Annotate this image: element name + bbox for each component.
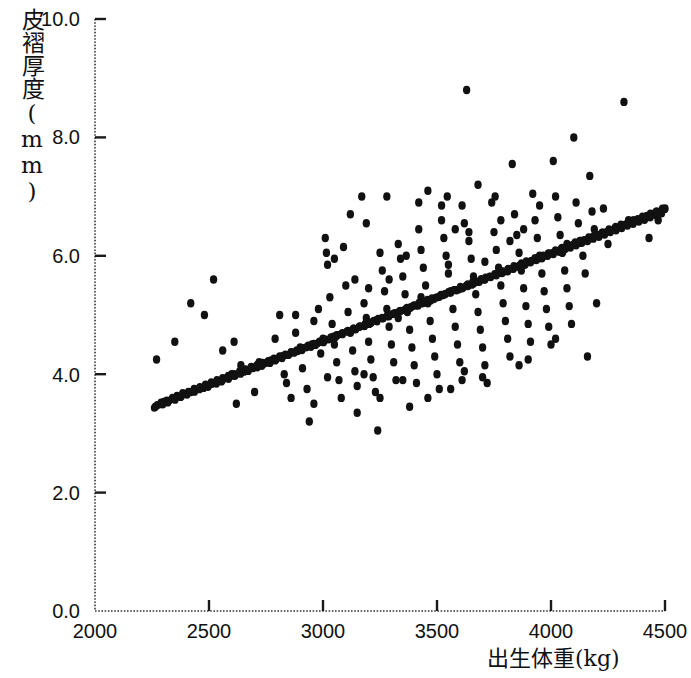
data-point — [383, 192, 390, 200]
data-point — [251, 388, 258, 396]
data-point — [385, 323, 392, 331]
data-point — [570, 133, 577, 141]
data-point — [233, 400, 240, 408]
data-point — [338, 394, 345, 402]
data-point — [390, 358, 397, 366]
data-point — [490, 228, 497, 236]
data-point — [395, 240, 402, 248]
data-point — [328, 320, 335, 328]
data-point — [479, 343, 486, 351]
data-point — [509, 160, 516, 168]
data-point — [654, 216, 661, 224]
data-point — [445, 260, 452, 268]
data-point — [504, 334, 511, 342]
data-point — [283, 379, 290, 387]
data-point — [593, 299, 600, 307]
data-point — [310, 317, 317, 325]
data-point — [579, 252, 586, 260]
data-point — [561, 266, 568, 274]
data-point — [452, 225, 459, 233]
data-point — [365, 284, 372, 292]
data-point — [340, 243, 347, 251]
data-point — [433, 370, 440, 378]
data-point — [506, 352, 513, 360]
data-point — [219, 346, 226, 354]
data-point — [511, 210, 518, 218]
data-point — [620, 98, 627, 106]
data-point — [586, 172, 593, 180]
data-point — [447, 385, 454, 393]
data-point — [461, 367, 468, 375]
data-point — [556, 231, 563, 239]
data-point — [515, 361, 522, 369]
data-point — [411, 361, 418, 369]
data-point — [442, 252, 449, 260]
data-point — [230, 337, 237, 345]
data-point — [333, 358, 340, 366]
data-point — [408, 343, 415, 351]
data-point — [458, 201, 465, 209]
data-point — [604, 240, 611, 248]
data-point — [477, 326, 484, 334]
data-point — [456, 358, 463, 366]
data-point — [465, 228, 472, 236]
data-point — [365, 337, 372, 345]
data-point — [472, 290, 479, 298]
data-point — [324, 373, 331, 381]
data-point — [452, 323, 459, 331]
data-point — [153, 355, 160, 363]
regression-line — [151, 204, 668, 411]
data-point — [399, 272, 406, 280]
data-point — [538, 269, 545, 277]
data-point — [420, 263, 427, 271]
data-point — [376, 394, 383, 402]
data-point — [479, 373, 486, 381]
data-point — [431, 352, 438, 360]
data-point — [342, 281, 349, 289]
data-point — [445, 269, 452, 277]
data-point — [315, 305, 322, 313]
data-point — [584, 352, 591, 360]
data-point — [497, 216, 504, 224]
data-point — [497, 281, 504, 289]
data-point — [515, 249, 522, 257]
data-point — [281, 370, 288, 378]
data-point — [463, 86, 470, 94]
data-point — [513, 231, 520, 239]
data-point — [322, 234, 329, 242]
data-point — [363, 219, 370, 227]
data-point — [403, 252, 410, 260]
data-point — [171, 337, 178, 345]
data-point — [415, 225, 422, 233]
data-point — [351, 367, 358, 375]
data-point — [317, 349, 324, 357]
data-point — [324, 260, 331, 268]
data-point — [424, 186, 431, 194]
data-point — [465, 237, 472, 245]
data-point — [540, 287, 547, 295]
data-point — [522, 302, 529, 310]
data-point — [415, 198, 422, 206]
data-point — [360, 370, 367, 378]
data-point — [438, 216, 445, 224]
data-point — [520, 284, 527, 292]
data-point — [474, 308, 481, 316]
data-point — [347, 210, 354, 218]
data-point — [406, 326, 413, 334]
data-point — [531, 216, 538, 224]
data-point — [354, 408, 361, 416]
data-point — [552, 334, 559, 342]
data-point — [566, 302, 573, 310]
data-point — [187, 299, 194, 307]
data-point — [429, 334, 436, 342]
regression-marker — [661, 205, 668, 213]
data-point — [374, 426, 381, 434]
data-point — [568, 320, 575, 328]
data-point — [575, 219, 582, 227]
data-point — [344, 308, 351, 316]
data-point — [474, 181, 481, 189]
data-point — [354, 382, 361, 390]
data-point — [545, 323, 552, 331]
data-point — [554, 213, 561, 221]
data-point — [436, 385, 443, 393]
